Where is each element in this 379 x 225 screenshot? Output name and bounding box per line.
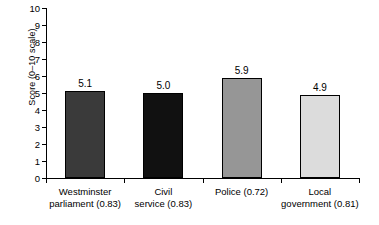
bar-value-label: 5.0 xyxy=(156,80,170,91)
y-axis-tick-label: 7 xyxy=(35,54,40,65)
y-axis-tick-label: 5 xyxy=(35,88,40,99)
x-axis-separator-tick xyxy=(203,178,204,183)
y-axis-tick-mark xyxy=(42,93,46,94)
y-axis-tick-mark xyxy=(42,25,46,26)
bar-value-label: 5.9 xyxy=(235,65,249,76)
y-axis-tick-label: 4 xyxy=(35,105,40,116)
bar: 4.9 xyxy=(300,95,340,178)
y-axis-tick-label: 2 xyxy=(35,139,40,150)
y-axis-tick-mark xyxy=(42,161,46,162)
y-axis-tick-label: 10 xyxy=(29,3,40,14)
x-axis-end-tick xyxy=(46,178,47,183)
x-axis-category-label: Local government (0.81) xyxy=(270,186,370,210)
y-axis-tick-mark xyxy=(42,42,46,43)
y-axis-tick-mark xyxy=(42,127,46,128)
y-axis-tick-label: 3 xyxy=(35,122,40,133)
bar: 5.9 xyxy=(222,78,262,178)
y-axis-tick-label: 6 xyxy=(35,71,40,82)
x-axis-separator-tick xyxy=(124,178,125,183)
y-axis-tick-label: 0 xyxy=(35,173,40,184)
bar-value-label: 5.1 xyxy=(78,78,92,89)
y-axis-tick-label: 9 xyxy=(35,20,40,31)
bar: 5.0 xyxy=(143,93,183,178)
y-axis-tick-mark xyxy=(42,110,46,111)
y-axis-tick-label: 1 xyxy=(35,156,40,167)
y-axis-tick-mark xyxy=(42,76,46,77)
y-axis-tick-mark xyxy=(42,8,46,9)
bar: 5.1 xyxy=(65,91,105,178)
bar-value-label: 4.9 xyxy=(313,82,327,93)
x-axis-separator-tick xyxy=(281,178,282,183)
y-axis-tick-mark xyxy=(42,144,46,145)
y-axis-tick-label: 8 xyxy=(35,37,40,48)
plot-area: 1098765432105.15.05.94.9 xyxy=(46,8,359,178)
y-axis-tick-mark xyxy=(42,59,46,60)
bar-chart: Score (0–10 scale) 1098765432105.15.05.9… xyxy=(0,0,379,225)
x-axis-end-tick xyxy=(359,178,360,183)
